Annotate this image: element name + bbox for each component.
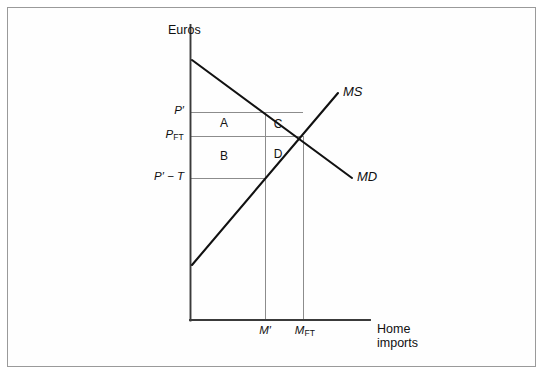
x-axis-title: Homeimports xyxy=(377,322,447,350)
region-label-a: A xyxy=(216,117,232,129)
diagram-canvas xyxy=(0,0,543,374)
x-axis-title-line-1: Home xyxy=(377,322,410,336)
region-label-b: B xyxy=(216,150,232,162)
price-tick-prime: ′ xyxy=(182,104,184,116)
x-axis-title-line-2: imports xyxy=(377,336,418,350)
figure-root: Euros Homeimports MS MD P′ PFT P′ − T M′… xyxy=(0,0,543,374)
quantity-tick-base: M xyxy=(295,324,305,336)
import-demand-curve-label: MD xyxy=(357,170,377,183)
axes xyxy=(190,25,370,321)
y-axis-title: Euros xyxy=(168,24,201,37)
quantity-tick-label-m-prime: M′ xyxy=(248,325,282,337)
quantity-tick-prime: ′ xyxy=(269,324,271,336)
region-label-d: D xyxy=(270,148,286,160)
quantity-tick-label-m-free-trade: MFT xyxy=(285,325,325,337)
guide-lines xyxy=(190,112,303,320)
curves xyxy=(192,60,352,265)
import-supply-curve-label: MS xyxy=(343,85,363,98)
price-tick-suffix: − T xyxy=(164,170,184,182)
price-tick-label-p-prime-minus-t: P′ − T xyxy=(134,171,184,183)
price-tick-base: P xyxy=(154,170,162,182)
price-tick-label-p-free-trade: PFT xyxy=(141,129,184,141)
region-label-c: C xyxy=(270,118,286,130)
quantity-tick-base: M xyxy=(259,324,269,336)
price-tick-base: P xyxy=(174,104,182,116)
quantity-tick-subscript: FT xyxy=(304,328,315,338)
price-tick-label-p-prime: P′ xyxy=(150,105,184,117)
price-tick-subscript: FT xyxy=(173,132,184,142)
